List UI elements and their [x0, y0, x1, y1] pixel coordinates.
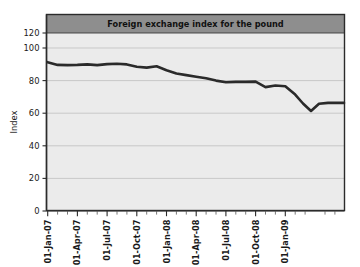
x-tick-label: 01-Jan-09	[280, 219, 290, 263]
foreign-exchange-line-chart: Foreign exchange index for the pound Ind…	[0, 0, 360, 267]
y-tick-label: 60	[29, 108, 40, 118]
y-tick-label: 120	[24, 28, 40, 38]
plot-background	[47, 15, 345, 211]
x-tick-label: 01-Jul-07	[102, 219, 112, 261]
y-tick-label: 20	[29, 173, 40, 183]
chart-figure: Foreign exchange index for the pound Ind…	[0, 0, 360, 267]
chart-title: Foreign exchange index for the pound	[107, 19, 284, 29]
x-tick-label: 01-Jan-08	[162, 219, 172, 263]
y-axis-title: Index	[9, 110, 19, 133]
x-tick-label: 01-Jan-07	[43, 219, 53, 263]
x-tick-label: 01-Apr-07	[72, 219, 82, 265]
x-tick-label: 01-Oct-07	[132, 219, 142, 265]
y-tick-label: 0	[34, 206, 39, 216]
y-tick-label: 40	[29, 141, 40, 151]
y-tick-label: 100	[24, 43, 40, 53]
x-tick-labels: 01-Jan-07 01-Apr-07 01-Jul-07 01-Oct-07 …	[43, 219, 291, 265]
x-tick-label: 01-Apr-08	[191, 219, 201, 265]
x-tick-label: 01-Oct-08	[251, 219, 261, 265]
y-tick-label: 80	[29, 76, 40, 86]
y-tick-labels: 0 20 40 60 80 100 120	[24, 28, 40, 216]
x-tick-label: 01-Jul-08	[221, 219, 231, 261]
x-axis-major-ticks	[48, 211, 286, 216]
